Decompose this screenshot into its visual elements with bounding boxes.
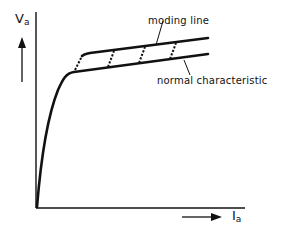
y-axis-symbol: V xyxy=(15,11,24,26)
moding-line-label: moding line xyxy=(148,15,209,27)
y-axis-label: Va xyxy=(15,12,29,29)
x-direction-arrow-icon xyxy=(182,213,222,221)
y-axis-subscript: a xyxy=(24,17,30,27)
y-direction-arrow-icon xyxy=(18,37,26,82)
x-axis-label: Ia xyxy=(232,209,241,226)
normal-characteristic-leader xyxy=(184,60,190,75)
diagram-canvas xyxy=(0,0,296,235)
normal-characteristic-label: normal characteristic xyxy=(157,75,268,87)
x-axis-subscript: a xyxy=(236,214,242,224)
